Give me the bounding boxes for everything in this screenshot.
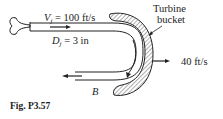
return-flow-arrow-icon [62,74,82,78]
bucket-velocity-label: 40 ft/s [181,56,208,67]
jet-velocity-value: = 100 ft/s [52,12,95,23]
nozzle-icon [10,18,30,35]
jet-diameter-var: D [52,35,60,46]
figure-caption: Fig. P3.57 [10,101,50,111]
bucket-label-line2: bucket [157,14,185,25]
jet-diameter-value: = 3 in [62,35,89,46]
jet-diameter-label: Dj = 3 in [52,35,89,50]
bucket-label-line1: Turbine [153,3,186,14]
bucket-velocity-arrow-icon [153,59,170,63]
jet-velocity-label: Vj = 100 ft/s [44,12,95,27]
point-b-label: B [92,86,98,97]
